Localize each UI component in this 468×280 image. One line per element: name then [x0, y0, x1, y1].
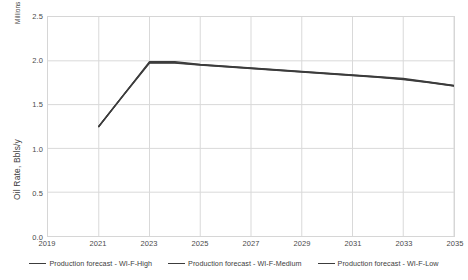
x-tick-label: 2035	[446, 239, 463, 248]
x-tick-label: 2025	[191, 239, 208, 248]
y-axis-tick-labels: 0.00.51.01.52.02.5	[0, 16, 43, 237]
legend-item-label: Production forecast - WI-F-High	[49, 259, 152, 268]
series-line-2	[99, 63, 454, 127]
x-tick-label: 2029	[293, 239, 310, 248]
legend-item-label: Production forecast - WI-F-Medium	[188, 259, 301, 268]
x-tick-label: 2031	[344, 239, 361, 248]
chart-legend: Production forecast - WI-F-HighProductio…	[0, 256, 468, 270]
y-tick-label: 0.5	[0, 188, 43, 197]
legend-line-icon	[318, 263, 335, 264]
plot-canvas	[48, 17, 454, 236]
series-line-1	[99, 63, 454, 127]
series-line-0	[99, 62, 454, 127]
y-tick-label: 0.0	[0, 233, 43, 242]
x-tick-label: 2021	[89, 239, 106, 248]
legend-line-icon	[29, 263, 46, 264]
x-tick-label: 2019	[38, 239, 55, 248]
y-tick-label: 2.0	[0, 56, 43, 65]
y-tick-label: 2.5	[0, 12, 43, 21]
x-tick-label: 2027	[242, 239, 259, 248]
oil-rate-forecast-chart: Millions Oil Rate, Bbls/y 0.00.51.01.52.…	[0, 0, 468, 280]
legend-item[interactable]: Production forecast - WI-F-Low	[318, 259, 439, 268]
legend-line-icon	[168, 263, 185, 264]
x-tick-label: 2033	[395, 239, 412, 248]
x-tick-label: 2023	[140, 239, 157, 248]
x-axis-tick-labels: 201920212023202520272029203120332035	[47, 239, 455, 251]
y-tick-label: 1.0	[0, 144, 43, 153]
legend-item[interactable]: Production forecast - WI-F-Medium	[168, 259, 301, 268]
legend-item[interactable]: Production forecast - WI-F-High	[29, 259, 152, 268]
legend-item-label: Production forecast - WI-F-Low	[338, 259, 439, 268]
plot-area	[47, 16, 455, 237]
y-tick-label: 1.5	[0, 100, 43, 109]
